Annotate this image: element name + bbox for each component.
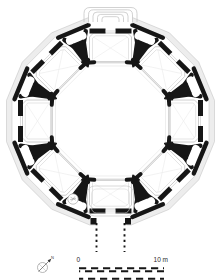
apse-steps: [84, 8, 137, 24]
entrance-jamb: [125, 218, 131, 225]
scale-zero-label: 0: [77, 256, 81, 263]
entrance-vestibule: [90, 181, 132, 214]
floor-plan: 0 10 m N: [0, 0, 221, 280]
north-label: N: [51, 255, 54, 260]
compass-rose: N: [38, 255, 55, 273]
scale-bar: 0 10 m: [77, 256, 169, 279]
central-octagon: [52, 63, 168, 179]
chapel-room: [18, 100, 51, 142]
chapel-room: [170, 100, 203, 142]
scale-end-label: 10 m: [154, 256, 168, 263]
chapel-room: [90, 29, 132, 62]
entrance-opening: [95, 216, 127, 226]
spiral-stair: [68, 194, 78, 204]
